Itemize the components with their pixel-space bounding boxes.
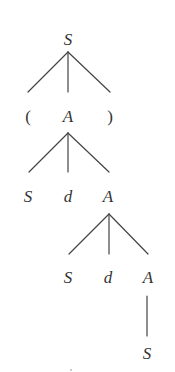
tree-node-terminal: ) [107, 108, 113, 125]
tree-edge-n0-n1 [28, 52, 68, 92]
tree-node-terminal: ( [25, 108, 31, 125]
tree-edge-n6-n9 [109, 214, 148, 254]
tree-edge-n2-n4 [29, 133, 68, 172]
tree-edge-n6-n7 [69, 214, 109, 254]
tree-node-nonterminal: S [64, 31, 73, 48]
scan-artifact [70, 369, 72, 371]
tree-node-nonterminal: A [103, 188, 113, 205]
tree-node-terminal: d [104, 269, 113, 286]
tree-node-nonterminal: A [143, 269, 153, 286]
tree-node-nonterminal: S [143, 345, 152, 362]
tree-node-nonterminal: S [64, 269, 73, 286]
tree-edge-n0-n3 [68, 52, 110, 92]
tree-edge-n2-n6 [68, 133, 109, 172]
tree-node-terminal: d [64, 188, 73, 205]
tree-node-nonterminal: A [63, 108, 73, 125]
tree-node-nonterminal: S [24, 188, 33, 205]
